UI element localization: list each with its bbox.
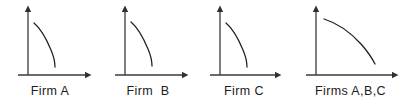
firm-b-curve: [131, 22, 152, 66]
firm-c-curve: [226, 23, 247, 67]
panel-caption-firm-a: Firm A: [0, 84, 100, 98]
chart-panel-firm-a: Firm A: [0, 0, 100, 107]
firm-curves-figure: Firm A Firm B: [0, 0, 409, 107]
firm-a-curve: [34, 23, 55, 67]
chart-panel-firm-b: Firm B: [98, 0, 198, 107]
firm-a-plot: [0, 0, 100, 84]
panel-caption-firm-b: Firm B: [98, 84, 198, 98]
firm-c-plot: [196, 0, 292, 84]
panel-caption-firm-c: Firm C: [196, 84, 292, 98]
firms-abc-curve: [324, 19, 375, 64]
chart-panel-firms-abc: Firms A,B,C: [292, 0, 409, 107]
firms-abc-plot: [292, 0, 409, 84]
panel-caption-firms-abc: Firms A,B,C: [292, 84, 409, 98]
firm-b-plot: [98, 0, 198, 84]
chart-panel-firm-c: Firm C: [196, 0, 292, 107]
